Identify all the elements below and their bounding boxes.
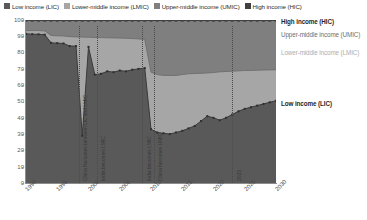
legend-swatch-icon [154,3,160,9]
annotation-label-3: China becomes UMIC [157,133,163,181]
y-axis-tick-label: 30 [2,131,24,137]
lic-data-marker [50,42,52,44]
x-axis-tick-label: 2030 [274,179,288,193]
y-axis-tick-label: 0 [2,180,24,186]
hic-data-marker [143,20,146,22]
lic-data-marker [94,74,96,76]
legend-item-2[interactable]: Upper-middle income (UMIC) [154,3,240,10]
lic-data-marker [31,33,33,35]
legend-label: High income (HIC) [253,3,302,10]
hic-data-marker [106,20,109,22]
hic-data-marker [131,20,134,22]
series-end-labels: High income (HIC)Upper-middle income (UM… [281,18,367,138]
y-axis-tick-mark [22,53,24,54]
hic-data-marker [81,20,84,22]
lic-data-marker [144,67,146,69]
hic-data-marker [75,20,78,22]
hic-data-marker [68,20,71,22]
hic-data-marker [181,20,184,22]
legend-item-3[interactable]: High income (HIC) [245,3,302,10]
chart-legend: Low income (LIC)Lower-middle income (LMI… [4,1,364,11]
lic-data-marker [56,42,58,44]
hic-data-marker [43,20,46,22]
y-axis-tick-label: 50 [2,98,24,104]
hic-data-marker [231,20,234,22]
lic-data-marker [213,117,215,119]
y-axis-tick-mark [22,118,24,119]
lic-data-marker [188,127,190,129]
annotation-label-0: China fluctuates between LIC and LMIC [82,95,88,181]
hic-data-marker [156,20,159,22]
lic-data-marker [106,70,108,72]
lic-data-marker [125,70,127,72]
legend-swatch-icon [245,3,251,9]
x-axis-labels: 199019952000200520102015202020252030 [0,186,367,220]
series-end-label-1: Upper-middle income (UMIC) [281,31,361,38]
lic-data-marker [75,45,77,47]
hic-data-marker [243,20,246,22]
hic-data-marker [26,20,28,22]
lic-data-marker [169,133,171,135]
y-axis-tick-label: 80 [2,49,24,55]
legend-label: Upper-middle income (UMIC) [162,3,240,10]
hic-data-marker [162,20,165,22]
y-axis-tick-label: 60 [2,82,24,88]
y-axis-tick-label: 40 [2,115,24,121]
lic-data-marker [263,103,265,105]
hic-data-marker [225,20,228,22]
hic-data-marker [262,20,265,22]
y-axis-tick-mark [22,69,24,70]
y-axis-tick-mark [22,102,24,103]
hic-data-marker [193,20,196,22]
hic-data-marker [137,20,140,22]
y-axis-tick-label: 100 [2,17,24,23]
lic-data-marker [119,70,121,72]
annotation-line-2 [142,26,143,183]
series-end-label-3: Low income (LIC) [281,100,361,107]
lic-data-marker [275,100,276,102]
lic-data-marker [100,73,102,75]
lic-data-marker [175,131,177,133]
hic-data-marker [237,20,240,22]
lic-data-marker [69,45,71,47]
lic-data-marker [250,106,252,108]
hic-data-marker [250,20,253,22]
lic-data-marker [238,110,240,112]
lic-data-marker [131,69,133,71]
hic-data-marker [112,20,115,22]
hic-data-marker [93,20,96,22]
hic-data-marker [168,20,171,22]
y-axis-tick-mark [22,36,24,37]
lic-data-marker [206,115,208,117]
lic-data-marker [150,128,152,130]
y-axis-tick-label: 20 [2,147,24,153]
hic-data-marker [175,20,178,22]
hic-data-marker [150,20,153,22]
hic-data-marker [37,20,40,22]
hic-data-marker [275,20,277,22]
y-axis-tick-mark [22,167,24,168]
lic-data-marker [113,71,115,73]
lic-data-marker [38,33,40,35]
hic-data-marker [187,20,190,22]
lic-data-marker [26,33,27,35]
y-axis-tick-mark [22,85,24,86]
hic-data-marker [118,20,121,22]
lic-data-marker [225,117,227,119]
lic-data-marker [44,34,46,36]
hic-data-marker [56,20,59,22]
hic-data-marker [31,20,34,22]
series-end-label-0: High income (HIC) [281,18,361,25]
hic-data-marker [62,20,65,22]
annotation-line-4 [232,26,233,183]
hic-data-marker [268,20,271,22]
y-axis-tick-mark [22,183,24,184]
lic-data-marker [269,101,271,103]
legend-item-1[interactable]: Lower-middle income (LMIC) [64,3,149,10]
hic-data-marker [100,20,103,22]
hic-data-marker [200,20,203,22]
hic-data-marker [256,20,259,22]
hic-data-marker [212,20,215,22]
hic-data-marker [50,20,53,22]
y-axis-tick-mark [22,20,24,21]
